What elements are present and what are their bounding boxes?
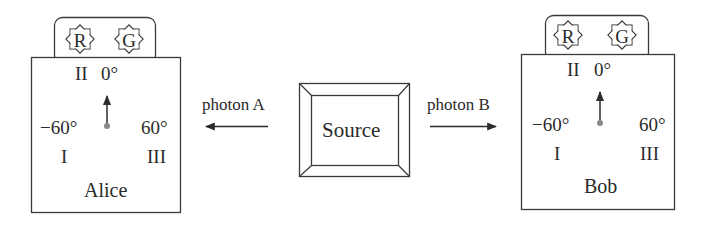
bob-lamp-g-label: G	[615, 27, 629, 46]
bob-setting-iii-angle: 60°	[639, 115, 666, 134]
bob-dial-pivot-icon	[597, 120, 603, 126]
alice-setting-ii-roman: II	[75, 64, 88, 83]
alice-lamp-g-label: G	[122, 31, 136, 50]
alice-name-label: Alice	[84, 180, 127, 200]
bob-setting-i-roman: I	[554, 144, 560, 163]
alice-setting-i-angle: −60°	[40, 118, 77, 137]
alice-setting-ii-angle: 0°	[101, 64, 118, 83]
bob-name-label: Bob	[584, 176, 617, 196]
bob-lamp-r-label: R	[562, 27, 575, 46]
photon-b-label: photon B	[427, 96, 490, 113]
alice-dial-pivot-icon	[104, 123, 110, 129]
alice-lamp-r-label: R	[74, 31, 87, 50]
alice-setting-iii-angle: 60°	[141, 118, 168, 137]
source-label: Source	[322, 120, 380, 141]
alice-setting-iii-roman: III	[147, 147, 166, 166]
bob-setting-ii-angle: 0°	[594, 60, 611, 79]
bob-setting-iii-roman: III	[640, 144, 659, 163]
bob-setting-i-angle: −60°	[532, 115, 569, 134]
photon-a-label: photon A	[202, 96, 265, 113]
alice-setting-i-roman: I	[61, 147, 67, 166]
bob-setting-ii-roman: II	[567, 60, 580, 79]
bell-experiment-diagram: R G II 0° −60° 60° I III Alice photon A …	[0, 0, 702, 227]
